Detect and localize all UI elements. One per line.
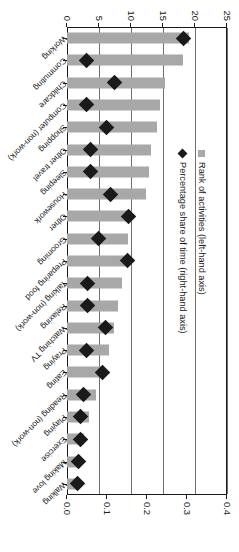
left-axis-tick [194, 23, 195, 27]
chart-bar [67, 33, 189, 44]
chart-bar [67, 255, 126, 266]
right-axis-label: 0.2 [142, 502, 153, 515]
chart-category: Eating [67, 361, 227, 383]
left-axis-tick [98, 23, 99, 27]
right-axis-tick [186, 495, 187, 499]
left-axis-tick [226, 23, 227, 27]
right-axis-label: 0.3 [182, 502, 193, 515]
right-axis-label: 0.1 [102, 502, 113, 515]
chart-category: Playing [67, 406, 227, 428]
gridline [227, 28, 228, 494]
chart-category: Working [67, 27, 227, 49]
chart-category: Praying [67, 339, 227, 361]
chart-category: Exercise [67, 428, 227, 450]
left-axis-tick [66, 23, 67, 27]
dual-axis-chart: WorkingCommutingChildcareComputer (non-w… [0, 0, 239, 552]
left-axis-label: 15 [158, 1, 169, 21]
chart-category: Commuting [67, 49, 227, 71]
left-axis-tick [130, 23, 131, 27]
legend-item-rank: Rank of activities (left-hand axis) [197, 150, 207, 334]
legend-label-rank: Rank of activities (left-hand axis) [197, 162, 207, 295]
chart-category: Childcare [67, 72, 227, 94]
diamond-swatch-icon [178, 149, 188, 159]
left-axis-label: 10 [126, 1, 137, 21]
left-axis-label: 25 [222, 1, 233, 21]
category-label: Other [47, 212, 69, 234]
right-axis-tick [146, 495, 147, 499]
chart-category: Walking [67, 473, 227, 495]
chart-bar [67, 144, 151, 155]
right-axis-label: 0.0 [62, 502, 73, 515]
chart-category: Shopping [67, 116, 227, 138]
chart-category: Computer (non-work) [67, 94, 227, 116]
left-axis-tick [162, 23, 163, 27]
chart-legend: Rank of activities (left-hand axis) Perc… [169, 150, 207, 334]
legend-label-share: Percentage share of time (right-hand axi… [178, 162, 188, 334]
right-axis-label: 0.4 [222, 502, 233, 515]
left-axis-label: 20 [190, 1, 201, 21]
chart-bar [67, 166, 149, 177]
left-axis-label: 0 [62, 1, 73, 21]
chart-category: Reading (non-work) [67, 384, 227, 406]
right-axis-tick [66, 495, 67, 499]
bar-swatch-icon [199, 150, 206, 157]
chart-category: Making love [67, 450, 227, 472]
left-axis-label: 5 [94, 1, 105, 21]
right-axis-tick [106, 495, 107, 499]
rotated-chart-wrapper: WorkingCommutingChildcareComputer (non-w… [0, 0, 239, 552]
legend-item-share: Percentage share of time (right-hand axi… [178, 150, 188, 334]
right-axis-tick [226, 495, 227, 499]
